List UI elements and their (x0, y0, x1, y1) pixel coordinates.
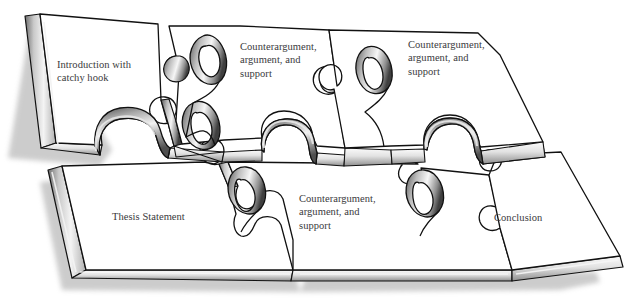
interlock-curve-col1-col2 (164, 56, 189, 82)
puzzle-diagram: Introduction with catchy hook Counterarg… (0, 0, 642, 302)
puzzle-illustration (0, 0, 642, 302)
interlock-knob-col2 (261, 119, 317, 164)
puzzle-piece-top-right (319, 30, 545, 166)
